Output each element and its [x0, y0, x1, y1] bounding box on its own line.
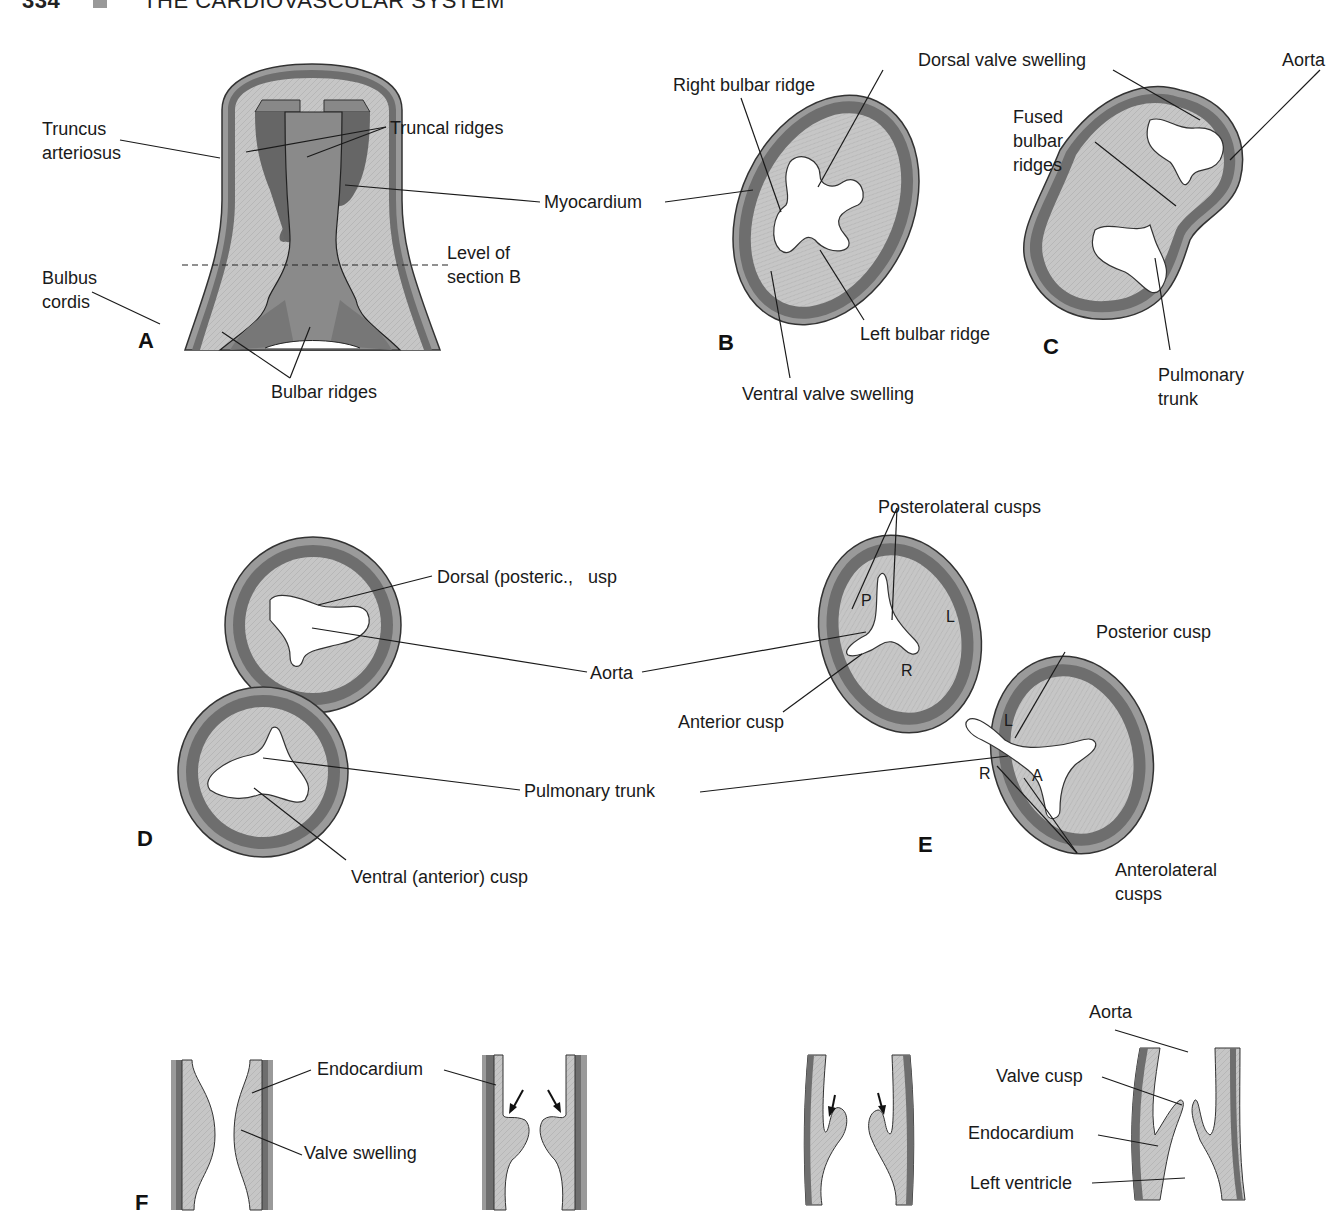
- panel-b-cross-section: [697, 65, 954, 355]
- panel-letter-d: D: [137, 826, 153, 852]
- label-posterior-cusp: Posterior cusp: [1096, 620, 1211, 644]
- cusp-letter-aortic-r: R: [901, 662, 913, 680]
- label-left-ventricle: Left ventricle: [970, 1171, 1072, 1195]
- label-aorta-d: Aorta: [590, 661, 633, 685]
- label-anterior-cusp: Anterior cusp: [678, 710, 784, 734]
- label-left-bulbar-ridge: Left bulbar ridge: [860, 322, 990, 346]
- cusp-letter-pulmonary-l: L: [1004, 712, 1013, 730]
- figure-artwork: [0, 0, 1334, 1219]
- panel-f-stage-3: [804, 1055, 913, 1205]
- panel-letter-e: E: [918, 832, 933, 858]
- label-truncal-ridges: Truncal ridges: [390, 116, 503, 140]
- label-truncus-arteriosus: Truncus arteriosus: [42, 117, 121, 165]
- label-aorta-c: Aorta: [1282, 48, 1325, 72]
- label-bulbus-cordis: Bulbus cordis: [42, 266, 97, 314]
- panel-letter-c: C: [1043, 334, 1059, 360]
- panel-letter-f: F: [135, 1190, 148, 1216]
- label-ventral-valve-swelling: Ventral valve swelling: [742, 382, 914, 406]
- label-ventral-anterior-cusp: Ventral (anterior) cusp: [351, 865, 528, 889]
- label-right-bulbar-ridge: Right bulbar ridge: [673, 73, 815, 97]
- label-fused-bulbar-ridges: Fused bulbar ridges: [1013, 105, 1063, 177]
- panel-letter-a: A: [138, 328, 154, 354]
- label-valve-cusp: Valve cusp: [996, 1064, 1083, 1088]
- cusp-letter-aortic-l: L: [946, 608, 955, 626]
- cusp-letter-pulmonary-a: A: [1032, 767, 1043, 785]
- panel-d-pulmonary-section: [178, 687, 348, 857]
- label-endocardium-f2: Endocardium: [968, 1121, 1074, 1145]
- label-bulbar-ridges: Bulbar ridges: [271, 380, 377, 404]
- panel-f-stage-2: [482, 1055, 587, 1210]
- label-endocardium-f1: Endocardium: [317, 1057, 423, 1081]
- label-level-of-section-b: Level of section B: [447, 241, 521, 289]
- cusp-letter-pulmonary-r: R: [979, 765, 991, 783]
- panel-f-stage-4: [1132, 1048, 1245, 1200]
- panel-f-stage-1: [171, 1060, 273, 1210]
- label-aorta-f: Aorta: [1089, 1000, 1132, 1024]
- label-pulmonary-trunk-c: Pulmonary trunk: [1158, 363, 1244, 411]
- label-dorsal-posterior-cusp: Dorsal (posteric., usp: [437, 565, 617, 589]
- label-posterolateral-cusps: Posterolateral cusps: [878, 495, 1041, 519]
- label-anterolateral-cusps: Anterolateral cusps: [1115, 858, 1217, 906]
- label-dorsal-valve-swelling: Dorsal valve swelling: [918, 48, 1086, 72]
- panel-e-pulmonary-valve: [966, 638, 1175, 873]
- label-pulmonary-trunk-d: Pulmonary trunk: [524, 779, 655, 803]
- panel-e-aortic-valve: [797, 517, 1003, 752]
- panel-a-truncus-drawing: [182, 64, 448, 350]
- panel-d-aorta-section: [225, 537, 401, 713]
- label-valve-swelling: Valve swelling: [304, 1141, 417, 1165]
- label-myocardium: Myocardium: [544, 190, 642, 214]
- panel-letter-b: B: [718, 330, 734, 356]
- cusp-letter-aortic-p: P: [861, 592, 872, 610]
